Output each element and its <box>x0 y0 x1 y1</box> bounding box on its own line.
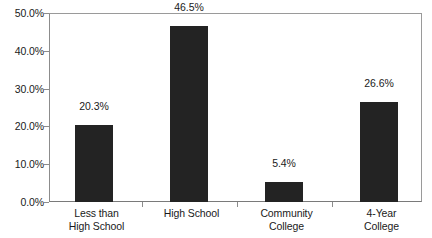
bar-group-high-school: 46.5% <box>170 13 208 202</box>
bar-rect[interactable] <box>75 125 113 202</box>
x-axis: Less than High School High School Commun… <box>49 207 422 238</box>
x-category-label-4-year-college: 4-Year College <box>334 207 429 233</box>
x-category-line-2: College <box>239 220 334 233</box>
y-tick-label-50: 50.0% <box>0 8 44 19</box>
bar-rect[interactable] <box>265 182 303 202</box>
bar-value-label: 20.3% <box>79 101 108 112</box>
bar-chart: 50.0% 40.0% 30.0% 20.0% 10.0% 0.0% 20.3%… <box>0 0 432 238</box>
x-category-line-2: High School <box>49 220 144 233</box>
bar-group-community-college: 5.4% <box>265 13 303 202</box>
bar-group-4-year-college: 26.6% <box>360 13 398 202</box>
y-tick-label-40: 40.0% <box>0 46 44 57</box>
bar-rect[interactable] <box>170 26 208 202</box>
bar-rect[interactable] <box>360 102 398 203</box>
y-tick-label-20: 20.0% <box>0 121 44 132</box>
bars-layer: 20.3% 46.5% 5.4% 26.6% <box>49 13 422 202</box>
x-category-line-2: College <box>334 220 429 233</box>
x-category-label-community-college: Community College <box>239 207 334 233</box>
bar-group-less-than-high-school: 20.3% <box>75 13 113 202</box>
x-category-line-1: High School <box>164 207 220 219</box>
x-category-label-high-school: High School <box>144 207 239 220</box>
y-axis: 50.0% 40.0% 30.0% 20.0% 10.0% 0.0% <box>0 0 44 238</box>
y-tick-label-0: 0.0% <box>0 197 44 208</box>
x-category-line-1: Less than <box>74 207 119 219</box>
x-category-line-1: Community <box>260 207 312 219</box>
y-tick-label-10: 10.0% <box>0 159 44 170</box>
bar-value-label: 46.5% <box>174 2 203 13</box>
x-category-label-less-than-high-school: Less than High School <box>49 207 144 233</box>
bar-value-label: 5.4% <box>272 158 296 169</box>
bar-value-label: 26.6% <box>364 78 393 89</box>
y-tick-label-30: 30.0% <box>0 84 44 95</box>
x-category-line-1: 4-Year <box>367 207 397 219</box>
y-tick-mark-0 <box>44 202 49 203</box>
